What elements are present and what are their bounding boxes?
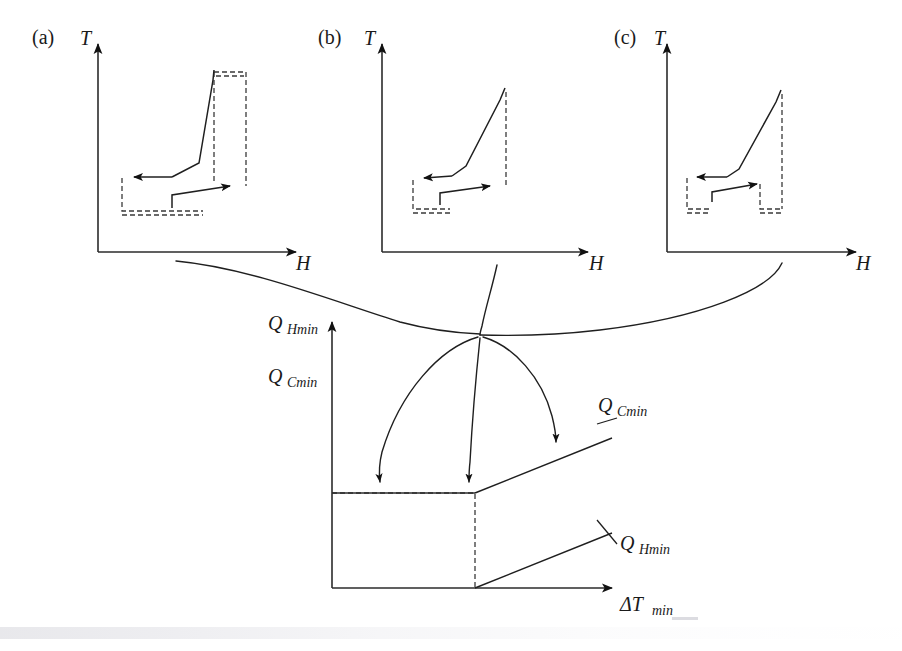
bottom-plot-x-axis-label: ΔT min xyxy=(619,593,673,618)
q-hmin-annotation-symbol: Q xyxy=(620,532,635,554)
mapping-arrow-left xyxy=(379,337,478,482)
connector-from-panel-a xyxy=(176,261,480,334)
q-hmin-subscript: Hmin xyxy=(286,322,318,337)
q-hmin-leader xyxy=(597,520,617,544)
panel-c-cold-composite-curve xyxy=(712,184,757,202)
panel-a: (a) T H xyxy=(32,26,312,274)
mapping-arrow-right xyxy=(483,337,556,442)
q-cmin-leader xyxy=(597,418,617,424)
panel-b-cold-composite-curve xyxy=(440,186,490,205)
q-cmin-symbol: Q xyxy=(268,365,283,387)
bottom-plot: Q Hmin Q Cmin Q Cmin Q Hmin xyxy=(268,312,673,618)
figure-page: (a) T H (b) T H xyxy=(0,0,902,651)
panel-a-hot-composite-curve xyxy=(172,70,214,177)
panel-a-x-axis-label: H xyxy=(295,252,312,274)
panel-b-cold-dashed-box xyxy=(413,180,450,209)
panel-c-x-axis-label: H xyxy=(855,252,872,274)
panel-b-cold-arrow xyxy=(424,176,452,178)
panel-b-y-axis-label: T xyxy=(364,27,377,49)
panel-b-hot-composite-curve xyxy=(452,88,505,176)
pinch-analysis-figure: (a) T H (b) T H xyxy=(0,0,902,651)
panel-c-label: (c) xyxy=(614,26,636,49)
bottom-plot-y-label-hmin: Q Hmin xyxy=(268,312,318,337)
delta-t-min-symbol: ΔT xyxy=(619,593,645,615)
q-cmin-annotation-subscript: Cmin xyxy=(617,404,647,419)
q-cmin-annotation-symbol: Q xyxy=(598,394,613,416)
connector-from-panel-b xyxy=(480,265,497,335)
panel-c: (c) T H xyxy=(614,26,872,274)
panel-c-y-axis-label: T xyxy=(654,27,667,49)
q-cmin-annotation: Q Cmin xyxy=(598,394,647,419)
panel-b-label: (b) xyxy=(318,26,341,49)
panel-c-hot-composite-curve xyxy=(727,90,781,177)
panel-c-hot-dashed-box xyxy=(760,184,782,209)
panel-a-cold-dashed-box xyxy=(122,178,203,211)
bottom-plot-reference-box xyxy=(332,493,475,588)
panel-a-y-axis-label: T xyxy=(80,27,93,49)
q-cmin-target-line xyxy=(475,438,612,493)
panel-c-cold-dashed-box xyxy=(687,178,710,209)
bottom-plot-y-label-cmin: Q Cmin xyxy=(268,365,317,390)
q-hmin-annotation: Q Hmin xyxy=(620,532,670,557)
q-hmin-target-line xyxy=(475,533,612,588)
scan-artifact-fleck xyxy=(672,617,698,620)
panel-b-x-axis-label: H xyxy=(588,252,605,274)
delta-t-min-subscript: min xyxy=(652,603,673,618)
q-hmin-symbol: Q xyxy=(268,312,283,334)
connector-from-panel-c xyxy=(480,263,782,335)
panel-a-hot-dashed-box xyxy=(214,72,246,186)
scan-artifact-strip xyxy=(0,627,902,639)
panel-a-cold-composite-curve xyxy=(172,186,230,208)
panel-a-label: (a) xyxy=(32,26,54,49)
panel-to-plot-connectors xyxy=(176,261,782,335)
q-hmin-annotation-subscript: Hmin xyxy=(638,542,670,557)
panel-b: (b) T H xyxy=(318,26,605,274)
mapping-arrow-middle xyxy=(469,338,480,482)
q-cmin-subscript: Cmin xyxy=(287,375,317,390)
